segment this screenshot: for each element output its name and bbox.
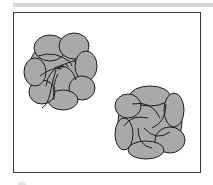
rosette-being-stitched (24, 33, 97, 110)
rosette-finished (115, 86, 185, 159)
rosette-illustration (0, 0, 213, 185)
bottom-mark (18, 182, 26, 185)
